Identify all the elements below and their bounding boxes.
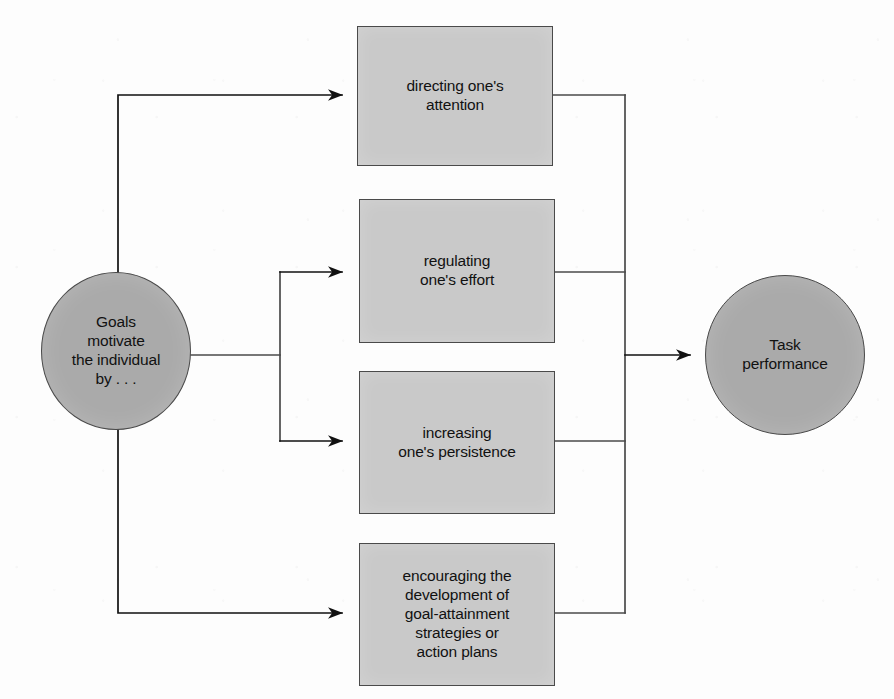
node-encouraging-strategies[interactable]: encouraging the development of goal-atta… xyxy=(359,543,555,686)
node-increasing-persistence-label: increasing one's persistence xyxy=(392,424,522,462)
node-directing-attention-label: directing one's attention xyxy=(400,77,509,115)
node-goals-label: Goals motivate the individual by . . . xyxy=(66,313,166,389)
node-directing-attention[interactable]: directing one's attention xyxy=(357,26,553,166)
edge-goals-to-strategies xyxy=(118,428,342,613)
flow-diagram-canvas: Goals motivate the individual by . . . d… xyxy=(0,0,894,699)
edge-goals-to-attention xyxy=(118,95,342,275)
node-encouraging-strategies-label: encouraging the development of goal-atta… xyxy=(397,567,518,662)
node-increasing-persistence[interactable]: increasing one's persistence xyxy=(359,371,555,514)
node-regulating-effort-label: regulating one's effort xyxy=(414,252,500,290)
node-regulating-effort[interactable]: regulating one's effort xyxy=(359,199,555,343)
node-task-performance-label: Task performance xyxy=(736,336,833,374)
node-goals[interactable]: Goals motivate the individual by . . . xyxy=(41,272,191,430)
node-task-performance[interactable]: Task performance xyxy=(705,275,865,435)
